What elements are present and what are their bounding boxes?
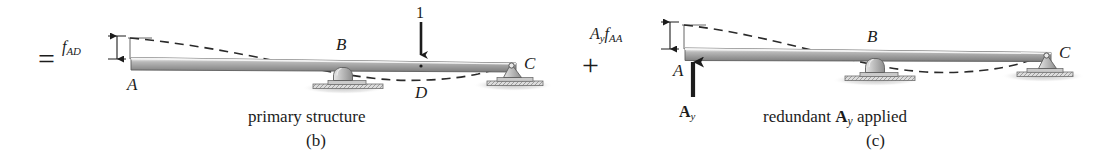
dimension-label-ay-faa: AyfAA bbox=[590, 26, 622, 44]
unit-load-arrow bbox=[419, 22, 422, 68]
operator-equals: = bbox=[38, 44, 55, 74]
panel-b-artwork bbox=[0, 0, 560, 159]
panel-primary-structure: = fAD A B C D 1 primary structure (b) bbox=[0, 0, 560, 159]
node-label-b: B bbox=[336, 36, 346, 53]
figure-label-b: (b) bbox=[306, 132, 326, 149]
beam bbox=[131, 58, 516, 73]
dimension-label-f-ad: fAD bbox=[62, 39, 81, 57]
node-label-c: C bbox=[524, 55, 535, 72]
node-label-d: D bbox=[415, 84, 427, 101]
figure-label-c: (c) bbox=[866, 132, 885, 149]
panel-c-artwork bbox=[560, 0, 1120, 159]
node-label-c: C bbox=[1059, 44, 1070, 61]
node-label-a: A bbox=[673, 62, 683, 79]
load-magnitude-label: 1 bbox=[416, 5, 424, 21]
caption-redundant-applied: redundant Ay applied bbox=[763, 108, 907, 128]
dimension-ay-faa bbox=[661, 22, 706, 49]
beam bbox=[685, 48, 1051, 62]
operator-plus: + bbox=[582, 50, 599, 80]
redundant-force-label: Ay bbox=[679, 104, 695, 122]
node-label-a: A bbox=[127, 76, 137, 93]
node-label-b: B bbox=[867, 28, 877, 45]
caption-primary-structure: primary structure bbox=[248, 108, 366, 125]
panel-redundant-applied: + AyfAA A B C Ay redundant Ay applied (c… bbox=[560, 0, 1120, 159]
superposition-figure: = fAD A B C D 1 primary structure (b) bbox=[0, 0, 1120, 159]
